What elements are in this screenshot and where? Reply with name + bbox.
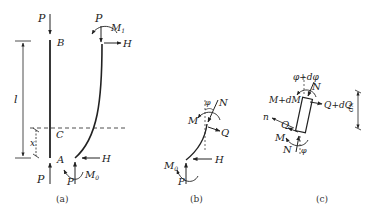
deformed-column	[75, 44, 102, 158]
label-x: x	[30, 138, 35, 148]
panel-c: φ+dφ N M+dM Q+dQ dx n Q M N φ (c)	[263, 72, 361, 204]
caption-b: (b)	[190, 194, 203, 204]
column-segment	[186, 124, 207, 160]
label-A: A	[56, 154, 64, 165]
label-phi: φ	[301, 146, 307, 155]
label-Q: Q	[221, 127, 229, 138]
label-P-top: P	[37, 12, 46, 25]
label-n: n	[263, 112, 269, 122]
force-arrow-N-bottom	[296, 136, 299, 152]
label-H-top: H	[122, 38, 132, 49]
caption-c: (c)	[316, 194, 328, 204]
label-N-bottom: N	[282, 144, 293, 155]
label-dx: dx	[346, 102, 355, 112]
label-N: N	[218, 97, 229, 108]
label-H: H	[214, 154, 224, 165]
label-M0: M0	[163, 160, 178, 172]
panel-b: φ N M Q H P M0 (b)	[163, 97, 229, 204]
label-Q: Q	[281, 119, 289, 130]
label-M0: M0	[84, 169, 99, 181]
label-M1: M1	[110, 22, 125, 34]
label-P-bottom: P	[36, 173, 45, 186]
label-phi: φ	[205, 98, 211, 107]
force-arrow-Q	[208, 127, 220, 131]
label-C: C	[56, 129, 64, 140]
panel-a: P B P A l x C P M1 H H P	[14, 12, 132, 204]
angle-arc-phi	[205, 109, 213, 111]
label-P-deformed-top: P	[94, 12, 103, 25]
label-B: B	[56, 37, 64, 48]
label-N-top: N	[311, 81, 322, 92]
caption-a: (a)	[56, 194, 68, 204]
label-M: M	[274, 132, 286, 143]
label-M: M	[187, 115, 199, 126]
label-l: l	[14, 93, 18, 106]
column-buckling-diagram: P B P A l x C P M1 H H P	[0, 0, 375, 216]
label-M-dM: M+dM	[268, 95, 302, 105]
label-H-bottom: H	[101, 153, 111, 164]
